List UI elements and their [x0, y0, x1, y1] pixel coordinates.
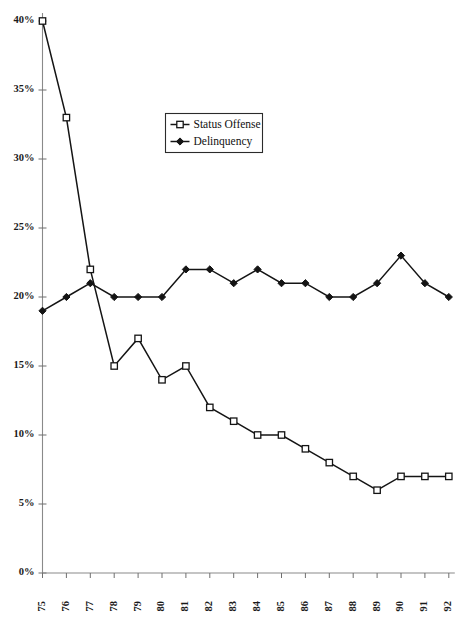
y-axis-tick-label: 0%	[19, 566, 35, 577]
y-axis-tick-label: 40%	[14, 14, 35, 25]
data-point-marker	[231, 418, 237, 424]
data-point-marker	[39, 18, 45, 24]
x-axis-tick-label: 81	[179, 601, 190, 612]
data-point-marker	[183, 363, 189, 369]
data-point-marker	[374, 487, 380, 493]
x-axis-tick-label: 88	[347, 601, 358, 612]
data-point-marker	[302, 446, 308, 452]
x-axis-tick-label: 85	[275, 601, 286, 612]
data-point-marker	[350, 473, 356, 479]
x-axis-tick-label: 76	[60, 601, 71, 612]
data-point-marker	[135, 335, 141, 341]
data-point-marker	[111, 363, 117, 369]
chart-legend: Status OffenseDelinquency	[166, 114, 263, 153]
y-axis-tick-label: 30%	[14, 152, 35, 163]
x-axis-tick-label: 82	[203, 601, 214, 612]
x-axis-tick-label: 77	[84, 601, 95, 612]
chart-canvas: 0%5%10%15%20%25%30%35%40% 75767778798081…	[0, 0, 459, 625]
line-chart: 0%5%10%15%20%25%30%35%40% 75767778798081…	[0, 0, 459, 625]
y-axis-tick-label: 10%	[14, 428, 35, 439]
y-axis-tick-label: 15%	[14, 359, 35, 370]
y-axis-tick-label: 5%	[19, 497, 35, 508]
data-point-marker	[63, 114, 69, 120]
x-axis-tick-label: 80	[155, 601, 166, 612]
x-axis-tick-label: 92	[442, 601, 453, 612]
legend-item-label: Delinquency	[194, 135, 253, 148]
y-axis-tick-label: 20%	[14, 290, 35, 301]
data-point-marker	[446, 473, 452, 479]
y-axis-tick-label: 25%	[14, 221, 35, 232]
x-axis-tick-label: 78	[108, 601, 119, 612]
data-point-marker	[254, 432, 260, 438]
x-axis-tick-label: 89	[371, 601, 382, 612]
data-point-marker	[422, 473, 428, 479]
legend-item-label: Status Offense	[194, 118, 261, 130]
x-axis-tick-label: 87	[323, 601, 334, 612]
data-point-marker	[326, 459, 332, 465]
data-point-marker	[177, 121, 183, 127]
data-point-marker	[278, 432, 284, 438]
chart-background	[0, 0, 459, 625]
x-axis-tick-label: 79	[132, 601, 143, 612]
x-axis-tick-label: 90	[394, 601, 405, 612]
data-point-marker	[159, 377, 165, 383]
data-point-marker	[398, 473, 404, 479]
x-axis-tick-label: 84	[251, 600, 262, 611]
y-axis-tick-label: 35%	[14, 83, 35, 94]
x-axis-tick-label: 75	[36, 601, 47, 612]
x-axis-tick-label: 86	[299, 601, 310, 612]
data-point-marker	[207, 404, 213, 410]
data-point-marker	[87, 266, 93, 272]
x-axis-tick-label: 91	[418, 601, 429, 612]
x-axis-tick-label: 83	[227, 601, 238, 612]
figure-caption	[0, 617, 459, 625]
